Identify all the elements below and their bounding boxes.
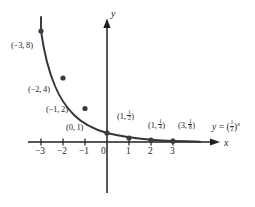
paren-close: ) bbox=[192, 120, 195, 130]
data-point bbox=[126, 135, 131, 140]
x-tick-label-neg2: −2 bbox=[57, 146, 67, 156]
paren-close: ) bbox=[131, 111, 134, 121]
graph-figure: (−3, 8) (−2, 4) (−1, 2) (0, 1) (1, 12) (… bbox=[0, 0, 255, 207]
point-label-3-eighth: (3, 18) bbox=[178, 119, 195, 131]
x-tick-label-neg1: −1 bbox=[79, 146, 89, 156]
label-x-value: 1 bbox=[151, 120, 155, 130]
fraction-one-eighth: 18 bbox=[188, 119, 192, 131]
paren-close: ) bbox=[162, 120, 165, 130]
x-tick-label-neg3: −3 bbox=[35, 146, 45, 156]
x-tick-label-0: 0 bbox=[101, 146, 106, 156]
point-label-neg2-4: (−2, 4) bbox=[28, 84, 50, 94]
point-label-neg3-8: (−3, 8) bbox=[11, 40, 33, 50]
point-label-neg1-2: (−1, 2) bbox=[46, 104, 68, 114]
data-point bbox=[60, 75, 65, 80]
equation-exponent: x bbox=[237, 120, 240, 127]
data-point bbox=[82, 106, 87, 111]
fraction-one-half: 12 bbox=[230, 120, 234, 132]
y-axis-label: y bbox=[111, 8, 115, 19]
label-x-value: 1 bbox=[120, 111, 124, 121]
x-tick-label-3: 3 bbox=[170, 146, 175, 156]
fraction-one-quarter: 14 bbox=[158, 119, 162, 131]
data-point bbox=[104, 130, 109, 135]
x-tick-label-2: 2 bbox=[148, 146, 153, 156]
data-point bbox=[38, 28, 43, 33]
curve-equation-label: y = (12)x bbox=[212, 120, 240, 133]
data-point bbox=[148, 137, 153, 142]
point-label-1-half: (1, 12) bbox=[117, 110, 134, 122]
point-label-2-quarter: (1, 14) bbox=[148, 119, 165, 131]
label-x-value: 3 bbox=[181, 120, 185, 130]
y-axis bbox=[103, 19, 110, 194]
equation-equals: = bbox=[218, 122, 224, 132]
data-point bbox=[170, 139, 175, 144]
fraction-one-half: 12 bbox=[127, 110, 131, 122]
graph-canvas bbox=[0, 0, 255, 207]
x-tick-label-1: 1 bbox=[126, 146, 131, 156]
equation-y: y bbox=[212, 122, 216, 132]
x-axis-label: x bbox=[224, 137, 228, 148]
point-label-0-1: (0, 1) bbox=[66, 122, 83, 132]
